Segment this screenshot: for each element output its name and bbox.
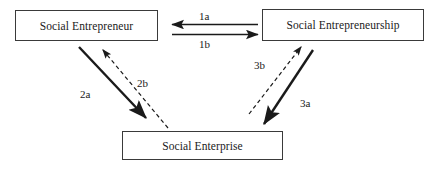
edge-label-3a: 3a bbox=[300, 97, 310, 109]
relationship-diagram: Social Entrepreneur Social Entrepreneurs… bbox=[0, 0, 435, 174]
edge-label-1a: 1a bbox=[199, 10, 209, 22]
edge-3b-arrow bbox=[249, 47, 301, 114]
edge-3a-arrow bbox=[264, 50, 313, 124]
node-label: Social Entrepreneurship bbox=[286, 19, 399, 31]
node-label: Social Enterprise bbox=[162, 140, 243, 152]
node-social-enterprise: Social Enterprise bbox=[122, 131, 283, 160]
edge-label-1b: 1b bbox=[199, 38, 210, 50]
edge-2a-arrow bbox=[79, 47, 146, 118]
edge-label-2a: 2a bbox=[80, 88, 90, 100]
edge-2b-arrow bbox=[103, 50, 168, 128]
node-social-entrepreneur: Social Entrepreneur bbox=[15, 10, 158, 41]
node-label: Social Entrepreneur bbox=[40, 20, 134, 32]
edge-label-3b: 3b bbox=[254, 59, 265, 71]
node-social-entrepreneurship: Social Entrepreneurship bbox=[262, 9, 424, 41]
edge-label-2b: 2b bbox=[137, 77, 148, 89]
